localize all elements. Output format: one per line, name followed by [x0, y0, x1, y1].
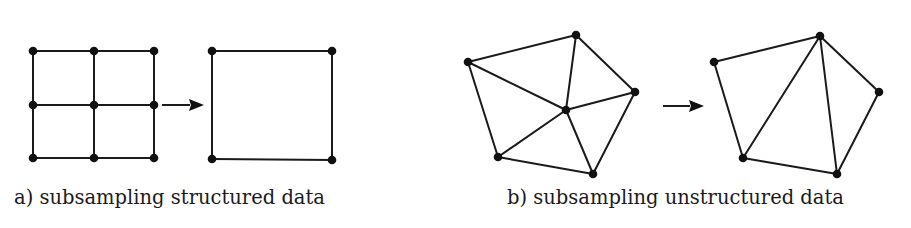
mesh-node [572, 31, 581, 40]
mesh-node [494, 153, 503, 162]
structured-grid-after [208, 47, 337, 165]
unstructured-mesh-before [464, 31, 640, 179]
mesh-edge [743, 158, 837, 174]
arrow-right-icon [663, 100, 704, 112]
subsampling-figure: a) subsampling structured data b) subsam… [0, 0, 911, 228]
mesh-edge [593, 92, 635, 174]
mesh-edge [468, 62, 566, 110]
mesh-node [833, 170, 842, 179]
mesh-node [208, 47, 217, 56]
caption-a: a) subsampling structured data [14, 186, 325, 209]
arrow-right-icon [162, 99, 204, 111]
mesh-node [29, 47, 38, 56]
mesh-node [710, 58, 719, 67]
mesh-node [562, 106, 571, 115]
panel-b: b) subsampling unstructured data [464, 31, 884, 209]
mesh-node [631, 88, 640, 97]
mesh-edge [837, 92, 879, 174]
mesh-node [328, 156, 337, 165]
unstructured-mesh-after [710, 32, 884, 179]
mesh-node [150, 47, 159, 56]
mesh-edge [498, 110, 566, 157]
mesh-edge [498, 157, 593, 174]
mesh-edge [566, 35, 576, 110]
mesh-edge [212, 159, 332, 160]
mesh-edge [820, 36, 879, 92]
mesh-node [29, 154, 38, 163]
mesh-node [29, 101, 38, 110]
mesh-node [875, 88, 884, 97]
mesh-edge [468, 35, 576, 62]
structured-grid-before [29, 47, 159, 163]
mesh-edge [820, 36, 837, 174]
mesh-edge [468, 62, 498, 157]
mesh-node [739, 154, 748, 163]
mesh-node [589, 170, 598, 179]
mesh-node [90, 101, 99, 110]
mesh-edge [566, 110, 593, 174]
caption-b: b) subsampling unstructured data [507, 186, 844, 209]
mesh-edge [576, 35, 635, 92]
mesh-node [90, 47, 99, 56]
mesh-node [150, 101, 159, 110]
mesh-edge [714, 36, 820, 62]
mesh-edge [566, 92, 635, 110]
mesh-node [208, 155, 217, 164]
mesh-node [328, 47, 337, 56]
mesh-node [90, 154, 99, 163]
panel-a: a) subsampling structured data [14, 47, 336, 209]
mesh-node [150, 154, 159, 163]
mesh-node [464, 58, 473, 67]
mesh-edge [743, 36, 820, 158]
mesh-edge [714, 62, 743, 158]
mesh-node [816, 32, 825, 41]
